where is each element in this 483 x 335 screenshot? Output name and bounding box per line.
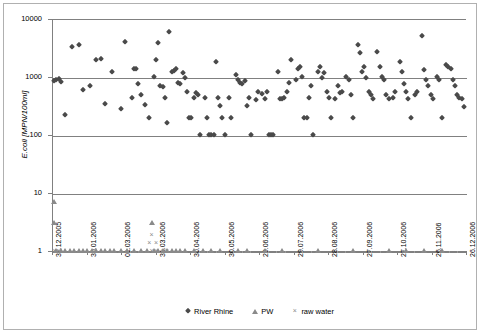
y-tick-label: 100 (29, 131, 42, 139)
data-point (421, 248, 427, 253)
x-tick-mark (432, 251, 433, 255)
x-minor-tick (276, 251, 277, 253)
data-point (439, 248, 445, 253)
plot-area (52, 19, 466, 251)
data-point (138, 248, 144, 253)
x-minor-tick (250, 251, 251, 253)
x-tick-label: 29.07.2006 (297, 222, 305, 257)
x-tick-mark (294, 251, 295, 255)
x-minor-tick (457, 251, 458, 253)
x-tick-label: 26.12.2006 (469, 222, 477, 257)
legend-item[interactable]: PW (251, 306, 273, 316)
x-minor-tick (449, 251, 450, 253)
data-point (244, 248, 250, 253)
gridline (53, 136, 467, 137)
x-tick-label: 28.08.2006 (331, 222, 339, 257)
gridline (53, 78, 467, 79)
legend-item[interactable]: raw water (291, 306, 334, 316)
triangle-icon (251, 308, 258, 315)
data-point (153, 248, 159, 254)
x-minor-tick (345, 251, 346, 253)
y-tick-label: 1000 (25, 73, 42, 81)
x-minor-tick (380, 251, 381, 253)
x-minor-tick (371, 251, 372, 253)
legend-label: PW (261, 307, 273, 316)
data-point (149, 220, 155, 225)
data-point (262, 248, 268, 253)
data-point (217, 248, 223, 253)
data-point (153, 240, 159, 246)
x-tick-mark (466, 251, 467, 255)
data-point (350, 248, 356, 253)
data-point (124, 248, 130, 253)
data-point (56, 248, 62, 254)
gridline (53, 194, 467, 195)
x-tick-mark (397, 251, 398, 255)
x-minor-tick (302, 251, 303, 253)
data-point (51, 199, 57, 204)
data-point (111, 248, 117, 253)
cross-icon (291, 308, 298, 315)
data-point (118, 248, 124, 253)
data-point (279, 248, 285, 253)
data-point (386, 248, 392, 253)
data-point (149, 232, 155, 238)
data-point (164, 248, 170, 254)
x-minor-tick (242, 251, 243, 253)
data-point (315, 248, 321, 253)
data-point (182, 248, 188, 253)
legend-item[interactable]: River Rhine (184, 306, 233, 316)
data-point (146, 240, 152, 246)
y-axis-ticks: 100001000100101 (0, 0, 49, 300)
chart-legend: River RhinePWraw water (52, 306, 466, 316)
data-point (131, 248, 137, 253)
x-minor-tick (414, 251, 415, 253)
data-point (208, 248, 214, 253)
x-minor-tick (337, 251, 338, 253)
x-tick-mark (225, 251, 226, 255)
diamond-icon (184, 308, 191, 315)
y-tick-label: 10 (34, 189, 42, 197)
x-minor-tick (311, 251, 312, 253)
data-point (51, 220, 57, 225)
data-point (200, 248, 206, 253)
data-point (235, 248, 241, 253)
legend-label: raw water (301, 307, 334, 316)
chart-canvas: E.coli [MPN/100ml] 100001000100101 31.12… (0, 0, 483, 335)
x-tick-label: 27.09.2006 (366, 222, 374, 257)
data-point (191, 248, 197, 253)
x-minor-tick (268, 251, 269, 253)
legend-label: River Rhine (194, 307, 233, 316)
y-tick-label: 10000 (21, 15, 42, 23)
x-tick-mark (363, 251, 364, 255)
x-tick-mark (328, 251, 329, 255)
x-tick-mark (259, 251, 260, 255)
data-point (403, 248, 409, 253)
y-tick-label: 1 (38, 247, 42, 255)
